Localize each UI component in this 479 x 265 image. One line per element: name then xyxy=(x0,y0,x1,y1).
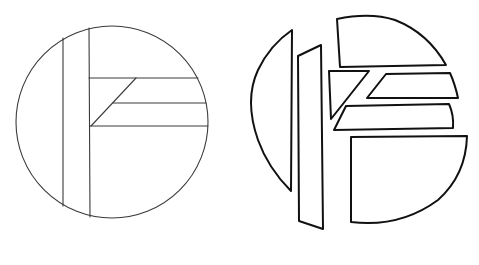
separated-pieces-group xyxy=(251,16,467,229)
vertical-line-right xyxy=(89,28,90,217)
assembled-circle-group xyxy=(16,26,208,218)
piece-vertical-strip xyxy=(298,45,323,229)
diagram-canvas xyxy=(0,0,479,265)
piece-upper-band xyxy=(367,73,458,98)
piece-bottom-segment xyxy=(351,136,467,223)
piece-lower-band xyxy=(334,104,453,130)
piece-left-segment xyxy=(251,30,292,191)
outer-circle xyxy=(16,26,208,218)
piece-top-segment xyxy=(337,16,446,67)
diagonal-line xyxy=(91,78,136,126)
dissection-diagram xyxy=(0,0,479,265)
